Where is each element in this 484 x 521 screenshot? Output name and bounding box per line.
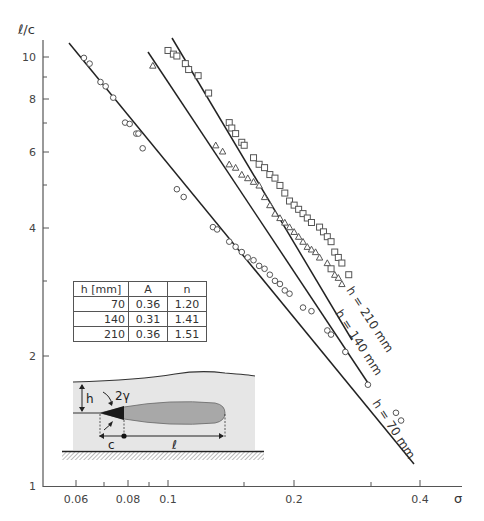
data-point-circle bbox=[267, 272, 273, 278]
c-marker-dot bbox=[121, 433, 126, 438]
data-point-square bbox=[277, 182, 283, 188]
x-tick-label-0.2: 0.2 bbox=[285, 493, 303, 506]
table-cell-h: 210 bbox=[74, 327, 129, 342]
data-point-circle bbox=[256, 263, 262, 269]
data-point-circle bbox=[245, 255, 251, 261]
data-point-square bbox=[174, 53, 180, 59]
x-tick-label-0.1: 0.1 bbox=[159, 493, 177, 506]
data-point-circle bbox=[110, 95, 116, 101]
x-axis-title: σ bbox=[454, 491, 462, 506]
data-point-triangle bbox=[232, 164, 238, 170]
x-tick-labels: 0.06 0.08 0.1 0.2 0.4 bbox=[64, 493, 429, 506]
data-point-circle bbox=[309, 308, 315, 314]
fit-parameters-table: h [mm] A n 70 0.36 1.20 140 0.31 1.41 21… bbox=[73, 281, 207, 342]
data-point-square bbox=[206, 90, 212, 96]
table-header-A: A bbox=[129, 282, 168, 297]
l-label: ℓ bbox=[171, 438, 177, 452]
data-point-square bbox=[182, 61, 188, 67]
data-point-triangle bbox=[245, 175, 251, 181]
angle-label: 2γ bbox=[115, 389, 130, 403]
data-point-triangle bbox=[256, 182, 262, 188]
data-point-circle bbox=[233, 244, 239, 250]
data-point-square bbox=[328, 239, 334, 245]
data-point-square bbox=[308, 220, 314, 226]
table-cell-n: 1.51 bbox=[168, 327, 207, 342]
table-cell-h: 70 bbox=[74, 297, 129, 312]
data-markers bbox=[81, 47, 404, 423]
table-header-row: h [mm] A n bbox=[74, 282, 207, 297]
y-tick-label-1: 1 bbox=[29, 480, 36, 493]
table-cell-A: 0.36 bbox=[129, 327, 168, 342]
table-cell-n: 1.20 bbox=[168, 297, 207, 312]
data-point-square bbox=[262, 165, 268, 171]
data-point-circle bbox=[287, 291, 293, 297]
h-label: h bbox=[86, 392, 94, 406]
data-point-circle bbox=[239, 249, 245, 255]
y-ticks bbox=[43, 57, 49, 356]
data-point-circle bbox=[398, 418, 404, 424]
data-point-triangle bbox=[339, 281, 345, 287]
y-tick-label-8: 8 bbox=[29, 93, 36, 106]
data-point-circle bbox=[393, 410, 399, 416]
table-row: 70 0.36 1.20 bbox=[74, 297, 207, 312]
data-point-square bbox=[251, 155, 257, 161]
data-point-circle bbox=[251, 257, 257, 263]
y-axis-title: ℓ/c bbox=[17, 22, 35, 37]
data-point-triangle bbox=[324, 260, 330, 266]
y-tick-label-6: 6 bbox=[29, 146, 36, 159]
y-tick-label-10: 10 bbox=[22, 51, 36, 64]
data-point-square bbox=[241, 142, 247, 148]
x-ticks bbox=[76, 480, 420, 486]
data-point-square bbox=[339, 260, 345, 266]
data-point-circle bbox=[103, 84, 109, 90]
data-point-circle bbox=[226, 239, 232, 245]
data-point-square bbox=[328, 266, 334, 272]
data-point-triangle bbox=[239, 171, 245, 177]
log-log-chart: 10 8 6 4 2 1 ℓ/c 0.06 0.08 0.1 0.2 0.4 σ bbox=[0, 0, 484, 521]
data-point-circle bbox=[300, 305, 306, 311]
data-point-circle bbox=[365, 382, 371, 388]
data-point-circle bbox=[136, 131, 142, 137]
data-point-triangle bbox=[213, 142, 219, 148]
data-point-circle bbox=[174, 186, 180, 192]
data-point-triangle bbox=[219, 148, 225, 154]
data-point-circle bbox=[181, 194, 187, 200]
y-tick-labels: 10 8 6 4 2 1 bbox=[22, 51, 36, 493]
y-tick-label-4: 4 bbox=[29, 222, 36, 235]
data-point-circle bbox=[98, 79, 104, 85]
data-point-circle bbox=[127, 121, 133, 127]
table-header-h: h [mm] bbox=[74, 282, 129, 297]
line-label-h70: h = 70 mm bbox=[369, 397, 418, 461]
table-cell-h: 140 bbox=[74, 312, 129, 327]
table-cell-n: 1.41 bbox=[168, 312, 207, 327]
data-point-square bbox=[186, 67, 192, 73]
x-tick-label-0.4: 0.4 bbox=[411, 493, 429, 506]
data-point-triangle bbox=[226, 161, 232, 167]
x-tick-label-0.06: 0.06 bbox=[64, 493, 89, 506]
x-tick-label-0.08: 0.08 bbox=[116, 493, 141, 506]
ground-hatching bbox=[62, 452, 264, 460]
data-point-circle bbox=[87, 61, 93, 67]
data-point-circle bbox=[343, 349, 349, 355]
table-header-n: n bbox=[168, 282, 207, 297]
table-cell-A: 0.31 bbox=[129, 312, 168, 327]
data-point-circle bbox=[140, 146, 146, 152]
data-point-square bbox=[272, 175, 278, 181]
table-row: 210 0.36 1.51 bbox=[74, 327, 207, 342]
c-label: c bbox=[108, 438, 115, 452]
data-point-circle bbox=[262, 266, 268, 272]
data-point-square bbox=[233, 131, 239, 137]
cavity-inset-diagram: h 2γ c ℓ bbox=[62, 372, 264, 460]
table-cell-A: 0.36 bbox=[129, 297, 168, 312]
data-point-circle bbox=[328, 332, 334, 338]
data-point-circle bbox=[81, 55, 87, 61]
data-point-square bbox=[282, 190, 288, 196]
y-tick-label-2: 2 bbox=[29, 350, 36, 363]
data-point-square bbox=[195, 73, 201, 79]
data-point-square bbox=[346, 272, 352, 278]
data-point-circle bbox=[214, 227, 220, 233]
data-point-circle bbox=[277, 281, 283, 287]
table-row: 140 0.31 1.41 bbox=[74, 312, 207, 327]
